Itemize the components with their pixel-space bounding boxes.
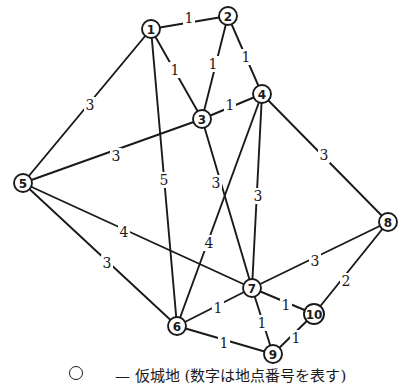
node-4: 4 <box>253 85 271 103</box>
edge-weight-6-9: 1 <box>218 335 230 351</box>
svg-text:1: 1 <box>214 300 223 316</box>
svg-text:1: 1 <box>220 335 229 351</box>
svg-text:3: 3 <box>254 188 263 204</box>
node-7: 7 <box>243 279 261 297</box>
node-8: 8 <box>379 213 397 231</box>
svg-text:1: 1 <box>209 56 218 72</box>
edge-weight-4-8: 3 <box>318 147 330 163</box>
svg-text:5: 5 <box>19 177 27 191</box>
edge-8-10 <box>314 222 388 314</box>
node-10: 10 <box>304 304 324 324</box>
svg-text:3: 3 <box>198 113 206 127</box>
node-6: 6 <box>168 317 186 335</box>
svg-text:1: 1 <box>147 23 155 37</box>
svg-text:1: 1 <box>171 62 180 78</box>
edge-weight-9-10: 1 <box>290 330 302 346</box>
edge-weight-4-7: 3 <box>252 188 264 204</box>
node-3: 3 <box>193 110 211 128</box>
svg-text:9: 9 <box>269 348 277 362</box>
edge-weight-7-9: 1 <box>256 315 268 331</box>
svg-text:8: 8 <box>384 216 392 230</box>
edges-layer <box>23 16 388 354</box>
node-1: 1 <box>142 20 160 38</box>
edge-5-7 <box>23 183 252 288</box>
svg-text:5: 5 <box>160 172 169 188</box>
edge-weight-1-2: 1 <box>183 10 195 26</box>
node-9: 9 <box>264 345 282 363</box>
svg-text:1: 1 <box>258 315 267 331</box>
svg-text:1: 1 <box>185 10 194 26</box>
node-2: 2 <box>219 7 237 25</box>
edge-weight-1-3: 1 <box>169 62 181 78</box>
svg-text:3: 3 <box>86 97 95 113</box>
edge-weight-2-3: 1 <box>207 56 219 72</box>
svg-text:3: 3 <box>112 148 121 164</box>
edge-weight-5-7: 4 <box>118 224 130 240</box>
svg-text:4: 4 <box>120 224 129 240</box>
svg-text:3: 3 <box>320 147 329 163</box>
svg-text:2: 2 <box>224 10 232 24</box>
svg-text:10: 10 <box>306 308 323 322</box>
svg-text:7: 7 <box>248 282 256 296</box>
edge-weight-6-7: 1 <box>212 300 224 316</box>
svg-text:3: 3 <box>212 175 221 191</box>
svg-text:3: 3 <box>311 253 320 269</box>
edge-weight-4-6: 4 <box>203 235 215 251</box>
svg-text:3: 3 <box>103 255 112 271</box>
svg-text:6: 6 <box>173 320 181 334</box>
svg-text:1: 1 <box>242 49 251 65</box>
edge-weight-2-4: 1 <box>240 49 252 65</box>
edge-weight-7-10: 1 <box>280 297 292 313</box>
svg-text:4: 4 <box>258 88 266 102</box>
legend-node-circle-icon <box>69 366 83 380</box>
svg-text:4: 4 <box>205 235 214 251</box>
svg-text:1: 1 <box>292 330 301 346</box>
edge-weight-5-6: 3 <box>101 255 113 271</box>
legend-caption: — 仮城地 (数字は地点番号を表す) <box>0 364 408 384</box>
legend-caption-text: — 仮城地 (数字は地点番号を表す) <box>115 364 346 385</box>
svg-text:1: 1 <box>226 97 235 113</box>
svg-text:1: 1 <box>282 297 291 313</box>
edge-weight-1-5: 3 <box>84 97 96 113</box>
edge-5-6 <box>23 183 177 326</box>
edge-weight-3-5: 3 <box>110 148 122 164</box>
edge-weight-8-10: 2 <box>340 273 352 289</box>
node-5: 5 <box>14 174 32 192</box>
svg-text:2: 2 <box>342 273 351 289</box>
edge-weight-1-6: 5 <box>158 172 170 188</box>
edge-weight-3-4: 1 <box>224 97 236 113</box>
edge-weight-3-7: 3 <box>210 175 222 191</box>
edge-weight-7-8: 3 <box>309 253 321 269</box>
nodes-layer: 12345678910 <box>14 7 397 363</box>
